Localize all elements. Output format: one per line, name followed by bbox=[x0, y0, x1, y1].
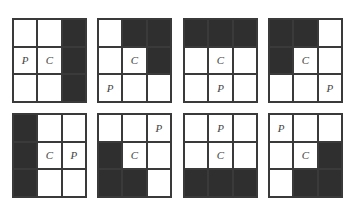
empty-cell bbox=[233, 74, 257, 102]
empty-cell bbox=[269, 74, 293, 102]
cell-c: C bbox=[208, 142, 232, 170]
grid-5: CP bbox=[12, 113, 87, 198]
filled-cell bbox=[208, 19, 232, 47]
empty-cell bbox=[37, 19, 61, 47]
cell-c: C bbox=[37, 142, 61, 170]
filled-cell bbox=[62, 47, 86, 75]
filled-cell bbox=[13, 142, 37, 170]
empty-cell bbox=[37, 114, 61, 142]
empty-cell bbox=[62, 169, 86, 197]
filled-cell bbox=[122, 169, 146, 197]
grid-4: CP bbox=[268, 18, 343, 103]
cell-p: P bbox=[208, 74, 232, 102]
empty-cell bbox=[318, 114, 342, 142]
filled-cell bbox=[293, 169, 317, 197]
filled-cell bbox=[13, 114, 37, 142]
filled-cell bbox=[208, 169, 232, 197]
empty-cell bbox=[184, 114, 208, 142]
empty-cell bbox=[147, 142, 171, 170]
empty-cell bbox=[147, 74, 171, 102]
empty-cell bbox=[98, 114, 122, 142]
empty-cell bbox=[184, 74, 208, 102]
cell-c: C bbox=[122, 47, 146, 75]
filled-cell bbox=[318, 142, 342, 170]
empty-cell bbox=[269, 169, 293, 197]
cell-p: P bbox=[208, 114, 232, 142]
grid-7: PC bbox=[183, 113, 258, 198]
filled-cell bbox=[147, 19, 171, 47]
filled-cell bbox=[62, 19, 86, 47]
filled-cell bbox=[122, 19, 146, 47]
cell-p: P bbox=[318, 74, 342, 102]
cell-p: P bbox=[98, 74, 122, 102]
empty-cell bbox=[293, 74, 317, 102]
cell-p: P bbox=[13, 47, 37, 75]
filled-cell bbox=[318, 169, 342, 197]
filled-cell bbox=[98, 142, 122, 170]
empty-cell bbox=[122, 114, 146, 142]
cell-c: C bbox=[293, 142, 317, 170]
empty-cell bbox=[184, 142, 208, 170]
grid-8: PC bbox=[268, 113, 343, 198]
cell-c: C bbox=[122, 142, 146, 170]
cell-c: C bbox=[293, 47, 317, 75]
grid-1: PC bbox=[12, 18, 87, 103]
empty-cell bbox=[318, 47, 342, 75]
filled-cell bbox=[184, 169, 208, 197]
filled-cell bbox=[269, 19, 293, 47]
cell-c: C bbox=[208, 47, 232, 75]
empty-cell bbox=[37, 169, 61, 197]
empty-cell bbox=[13, 74, 37, 102]
empty-cell bbox=[147, 169, 171, 197]
filled-cell bbox=[13, 169, 37, 197]
cell-p: P bbox=[269, 114, 293, 142]
cell-p: P bbox=[147, 114, 171, 142]
filled-cell bbox=[269, 47, 293, 75]
empty-cell bbox=[98, 19, 122, 47]
cell-c: C bbox=[37, 47, 61, 75]
grid-2: CP bbox=[97, 18, 172, 103]
filled-cell bbox=[184, 19, 208, 47]
filled-cell bbox=[233, 169, 257, 197]
grid-6: PC bbox=[97, 113, 172, 198]
empty-cell bbox=[233, 47, 257, 75]
empty-cell bbox=[233, 142, 257, 170]
filled-cell bbox=[147, 47, 171, 75]
empty-cell bbox=[318, 19, 342, 47]
filled-cell bbox=[62, 74, 86, 102]
empty-cell bbox=[269, 142, 293, 170]
empty-cell bbox=[62, 114, 86, 142]
empty-cell bbox=[98, 47, 122, 75]
empty-cell bbox=[122, 74, 146, 102]
empty-cell bbox=[13, 19, 37, 47]
empty-cell bbox=[37, 74, 61, 102]
empty-cell bbox=[184, 47, 208, 75]
empty-cell bbox=[233, 114, 257, 142]
filled-cell bbox=[293, 19, 317, 47]
cell-p: P bbox=[62, 142, 86, 170]
grid-3: CP bbox=[183, 18, 258, 103]
empty-cell bbox=[293, 114, 317, 142]
filled-cell bbox=[98, 169, 122, 197]
filled-cell bbox=[233, 19, 257, 47]
